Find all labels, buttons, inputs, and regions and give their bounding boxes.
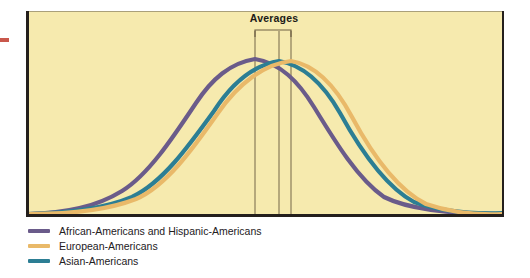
legend-item-label: African-Americans and Hispanic-Americans [59, 225, 262, 237]
axis-bottom [26, 214, 504, 217]
plot-area [26, 11, 504, 217]
chart-figure: Averages African-Americans and Hispanic-… [0, 0, 530, 278]
legend-item-european-americans: European-Americans [28, 238, 498, 253]
curve-asian-americans [28, 61, 502, 214]
averages-bracket [255, 30, 291, 37]
axis-left [26, 11, 29, 217]
legend-item-asian-americans: Asian-Americans [28, 253, 498, 268]
legend-swatch-icon [28, 229, 50, 233]
page-margin-mark [0, 38, 9, 42]
curve-european-americans [30, 61, 502, 214]
legend-item-label: European-Americans [59, 240, 158, 252]
averages-annotation-label: Averages [232, 12, 316, 24]
legend-swatch-icon [28, 244, 50, 248]
curve-african-hispanic-americans [28, 59, 502, 214]
chart-legend: African-Americans and Hispanic-Americans… [28, 223, 498, 268]
legend-item-african-hispanic-americans: African-Americans and Hispanic-Americans [28, 223, 498, 238]
distribution-curves [26, 11, 504, 217]
legend-item-label: Asian-Americans [59, 255, 138, 267]
legend-swatch-icon [28, 259, 50, 263]
axis-right [502, 11, 504, 217]
